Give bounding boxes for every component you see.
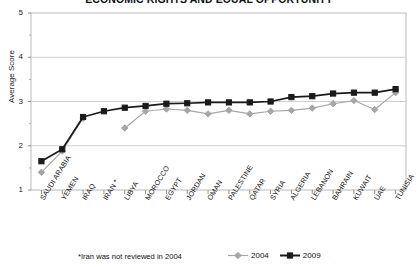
data-point [205,100,210,105]
data-point [122,105,127,110]
data-point [268,99,273,104]
data-point [372,90,377,95]
chart-footnote: *Iran was not reviewed in 2004 [78,252,182,261]
data-point [143,103,148,108]
data-point [60,147,65,152]
data-point [247,100,252,105]
legend-square-marker-icon [280,251,300,260]
data-point [101,109,106,114]
data-point [80,114,85,119]
legend-item-2004[interactable]: 2004 [228,251,269,260]
data-point [39,159,44,164]
chart-container: ECONOMIC RIGHTS AND EQUAL OPPORTUNITY Av… [0,0,418,267]
legend-label: 2009 [303,251,321,260]
legend-label: 2004 [251,251,269,260]
data-point [393,87,398,92]
plot-area [0,0,418,267]
legend-item-2009[interactable]: 2009 [280,251,321,260]
data-point [289,94,294,99]
data-point [185,101,190,106]
data-point [330,91,335,96]
chart-legend: 20042009 [228,251,321,260]
data-point [351,90,356,95]
data-point [310,94,315,99]
legend-diamond-marker-icon [228,251,248,260]
data-point [226,100,231,105]
data-point [164,101,169,106]
